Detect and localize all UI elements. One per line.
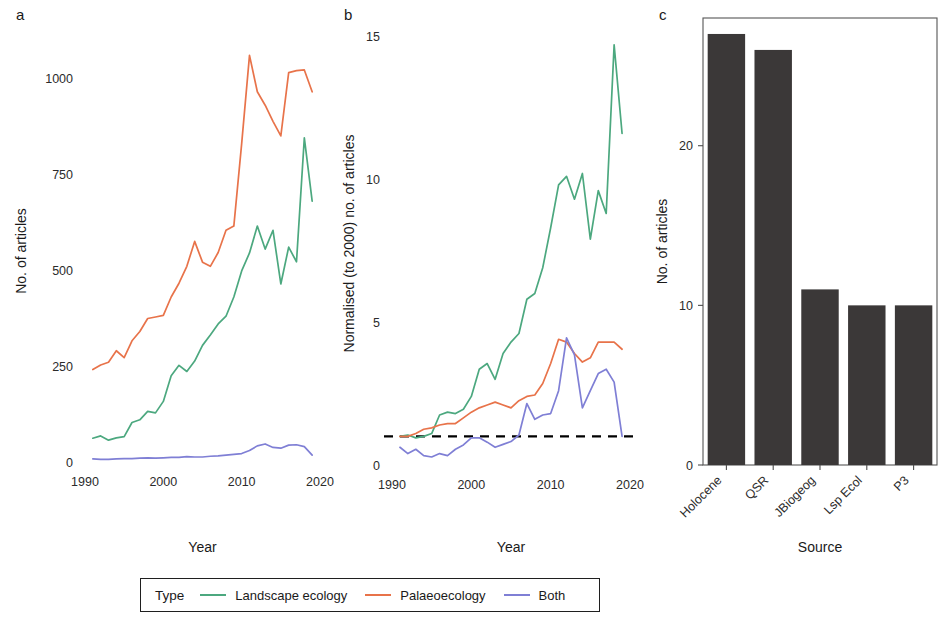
svg-text:1000: 1000 xyxy=(45,72,73,86)
svg-text:250: 250 xyxy=(52,360,73,374)
series-line-both xyxy=(400,338,622,457)
svg-text:Source: Source xyxy=(798,539,843,555)
svg-text:10: 10 xyxy=(366,173,380,187)
panel-a: a 025050075010001990200020102020YearNo. … xyxy=(0,0,340,570)
svg-text:2000: 2000 xyxy=(149,475,177,489)
svg-text:2010: 2010 xyxy=(537,478,565,492)
panel-b-label: b xyxy=(344,6,352,23)
x-tick-label: QSR xyxy=(742,473,771,502)
bar-holocene[interactable] xyxy=(708,34,745,465)
bar-qsr[interactable] xyxy=(754,50,791,465)
legend-label-landscape-ecology: Landscape ecology xyxy=(235,588,347,603)
svg-text:No. of articles: No. of articles xyxy=(13,208,29,294)
legend-label-both: Both xyxy=(539,588,566,603)
svg-text:1990: 1990 xyxy=(378,478,406,492)
svg-text:0: 0 xyxy=(373,459,380,473)
legend-swatch-palaeoecology xyxy=(365,594,391,596)
svg-text:0: 0 xyxy=(66,456,73,470)
svg-text:Year: Year xyxy=(188,539,217,555)
svg-text:No. of articles: No. of articles xyxy=(654,199,670,285)
legend-item-both[interactable]: Both xyxy=(504,588,566,603)
panel-c-chart: 01020HoloceneQSRJBiogeogLsp EcolP3Source… xyxy=(645,0,949,570)
svg-text:20: 20 xyxy=(679,139,693,153)
series-line-both xyxy=(93,444,312,459)
svg-text:500: 500 xyxy=(52,264,73,278)
legend: Type Landscape ecology Palaeoecology Bot… xyxy=(140,578,600,612)
svg-text:2000: 2000 xyxy=(457,478,485,492)
bar-lsp-ecol[interactable] xyxy=(848,305,885,465)
legend-item-palaeoecology[interactable]: Palaeoecology xyxy=(365,588,485,603)
svg-text:Year: Year xyxy=(497,539,526,555)
svg-text:10: 10 xyxy=(679,299,693,313)
bar-p3[interactable] xyxy=(895,305,932,465)
figure-container: a 025050075010001990200020102020YearNo. … xyxy=(0,0,949,618)
series-line-landscape-ecology xyxy=(93,138,312,440)
x-tick-label: P3 xyxy=(891,473,912,494)
svg-text:0: 0 xyxy=(686,459,693,473)
svg-text:1990: 1990 xyxy=(71,475,99,489)
legend-title: Type xyxy=(155,588,184,603)
legend-swatch-landscape-ecology xyxy=(200,594,226,596)
panel-c-label: c xyxy=(659,6,667,23)
svg-text:2020: 2020 xyxy=(616,478,644,492)
series-line-palaeoecology xyxy=(400,339,622,436)
series-line-landscape-ecology xyxy=(400,45,622,438)
svg-text:750: 750 xyxy=(52,168,73,182)
svg-text:5: 5 xyxy=(373,316,380,330)
x-tick-label: Lsp Ecol xyxy=(821,473,865,517)
series-line-palaeoecology xyxy=(93,55,312,369)
panel-b-chart: 0510151990200020102020YearNormalised (to… xyxy=(330,0,660,570)
panel-a-label: a xyxy=(16,6,24,23)
x-tick-label: Holocene xyxy=(677,473,724,520)
legend-swatch-both xyxy=(504,594,530,596)
svg-text:Normalised (to 2000) no. of ar: Normalised (to 2000) no. of articles xyxy=(341,135,357,353)
svg-text:2010: 2010 xyxy=(228,475,256,489)
panel-a-chart: 025050075010001990200020102020YearNo. of… xyxy=(0,0,340,570)
x-tick-label: JBiogeog xyxy=(771,473,818,520)
legend-label-palaeoecology: Palaeoecology xyxy=(400,588,485,603)
bar-jbiogeog[interactable] xyxy=(801,289,838,465)
panel-c: c 01020HoloceneQSRJBiogeogLsp EcolP3Sour… xyxy=(645,0,949,570)
panel-b: b 0510151990200020102020YearNormalised (… xyxy=(330,0,660,570)
svg-text:15: 15 xyxy=(366,30,380,44)
legend-item-landscape-ecology[interactable]: Landscape ecology xyxy=(200,588,347,603)
